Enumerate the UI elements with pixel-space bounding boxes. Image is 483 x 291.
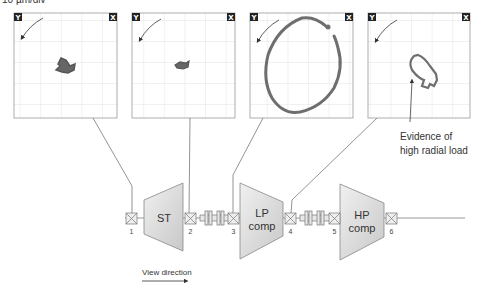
svg-text:HP: HP bbox=[354, 209, 369, 221]
svg-text:Y: Y bbox=[250, 14, 257, 22]
svg-text:1: 1 bbox=[130, 228, 134, 235]
y-label: Y bbox=[14, 14, 21, 22]
svg-text:Y: Y bbox=[132, 14, 139, 22]
bearing-2: 2 bbox=[185, 213, 196, 235]
bearing-6: 6 bbox=[386, 213, 397, 235]
orbit-plot-2: Y X bbox=[132, 13, 235, 118]
orbit-plot-1: Y X bbox=[14, 13, 117, 118]
svg-text:X: X bbox=[346, 14, 352, 22]
bearing-4: 4 bbox=[285, 213, 296, 235]
machine-lp-comp: LP comp bbox=[240, 183, 283, 259]
bearing-1: 1 bbox=[126, 213, 137, 235]
svg-text:4: 4 bbox=[289, 228, 293, 235]
svg-text:comp: comp bbox=[349, 222, 376, 234]
svg-text:X: X bbox=[228, 14, 234, 22]
bearing-5: 5 bbox=[329, 213, 340, 235]
x-label: X bbox=[110, 14, 116, 22]
svg-text:Y: Y bbox=[368, 14, 375, 22]
annotation-line-1: Evidence of bbox=[400, 131, 452, 143]
svg-text:2: 2 bbox=[189, 228, 193, 235]
svg-text:6: 6 bbox=[390, 228, 394, 235]
machine-st: ST bbox=[144, 183, 183, 251]
machine-hp-comp: HP comp bbox=[340, 184, 384, 260]
svg-text:X: X bbox=[463, 14, 469, 22]
svg-text:ST: ST bbox=[157, 212, 171, 224]
svg-text:3: 3 bbox=[232, 228, 236, 235]
bearing-3: 3 bbox=[228, 213, 239, 235]
svg-text:5: 5 bbox=[333, 228, 337, 235]
annotation-line-2: high radial load bbox=[400, 145, 468, 157]
view-direction-label: View direction bbox=[142, 268, 192, 277]
connector-lines bbox=[93, 118, 377, 213]
orbit-plot-3: Y X bbox=[250, 13, 353, 118]
orbit-plot-4: Y X bbox=[368, 13, 470, 122]
svg-text:comp: comp bbox=[249, 220, 276, 232]
svg-text:LP: LP bbox=[255, 207, 268, 219]
